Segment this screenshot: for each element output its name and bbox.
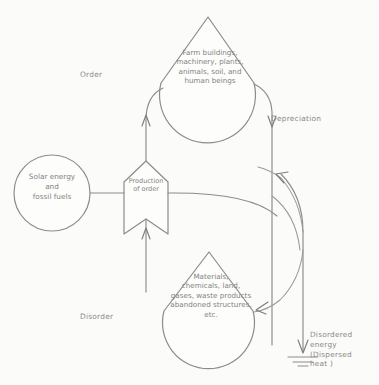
flow-recycle-upper: [258, 167, 303, 232]
solar-energy-source-shape: [14, 155, 90, 231]
flow-recycle-to-disorder: [254, 250, 303, 312]
flow-heat-trunk: [281, 174, 303, 352]
flow-recycle-to-disorder-arrowhead: [256, 302, 268, 314]
earth-ground-icon: [288, 357, 318, 366]
disorder-store-shape: [163, 252, 255, 369]
flow-trunk-secondary: [272, 196, 300, 250]
diagram-canvas: Farm buildings, machinery, plants, anima…: [0, 0, 379, 385]
order-store-shape: [160, 17, 256, 143]
flow-recycle-upper-arrowhead: [276, 172, 288, 183]
diagram-svg: [0, 0, 379, 385]
flow-converter-to-trunk: [168, 193, 277, 216]
